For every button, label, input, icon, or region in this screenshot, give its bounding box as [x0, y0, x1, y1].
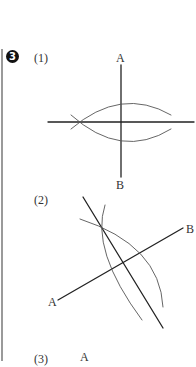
figure-1 [48, 65, 194, 177]
figure-2 [58, 197, 183, 328]
fig2-segment-ab [58, 228, 183, 300]
fig2-bisector-line [83, 197, 163, 328]
